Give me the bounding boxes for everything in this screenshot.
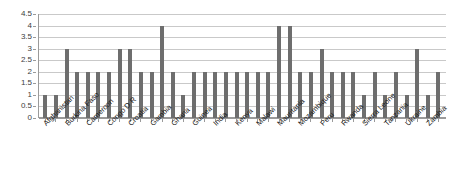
y-axis-tick-mark <box>33 60 36 61</box>
y-axis-tick-mark <box>33 106 36 107</box>
y-axis-tick-mark <box>33 95 36 96</box>
y-axis-tick-mark <box>33 37 36 38</box>
y-axis-tick-mark <box>33 118 36 119</box>
y-axis-tick-mark <box>33 14 36 15</box>
y-axis-tick-label: 3 <box>28 45 32 53</box>
bar-chart: 00.511.522.533.544.5 AfghanistanBurkina … <box>0 0 453 180</box>
bar <box>277 26 281 118</box>
bar <box>213 72 217 118</box>
bar-slot <box>136 14 147 118</box>
bar <box>256 72 260 118</box>
y-axis-tick-label: 0 <box>28 114 32 122</box>
bar <box>150 72 154 118</box>
bar <box>235 72 239 118</box>
y-axis-tick-label: 1.5 <box>21 79 32 87</box>
bar-slot <box>274 14 285 118</box>
bar-slot <box>168 14 179 118</box>
bar-slot <box>221 14 232 118</box>
bar-slot <box>327 14 338 118</box>
y-axis-tick-label: 3.5 <box>21 33 32 41</box>
bar-slot <box>146 14 157 118</box>
bar-slot <box>433 14 444 118</box>
y-axis-tick-label: 1 <box>28 91 32 99</box>
bar-slot <box>253 14 264 118</box>
y-axis: 00.511.522.533.544.5 <box>0 14 36 118</box>
bar <box>107 72 111 118</box>
bar-slot <box>242 14 253 118</box>
y-axis-tick-label: 2 <box>28 68 32 76</box>
y-axis-tick-label: 2.5 <box>21 56 32 64</box>
bar <box>298 72 302 118</box>
bar-slot <box>423 14 434 118</box>
y-axis-tick-mark <box>33 26 36 27</box>
bar-slot <box>189 14 200 118</box>
bar-slot <box>231 14 242 118</box>
bar-slot <box>199 14 210 118</box>
y-axis-tick-label: 4 <box>28 22 32 30</box>
y-axis-tick-mark <box>33 49 36 50</box>
y-axis-tick-label: 0.5 <box>21 102 32 110</box>
bar-slot <box>210 14 221 118</box>
bar-slot <box>40 14 51 118</box>
x-axis-labels: AfghanistanBurkina FasoCameroonCongo D R… <box>38 122 446 180</box>
bar <box>341 72 345 118</box>
bar-slot <box>263 14 274 118</box>
y-axis-tick-mark <box>33 83 36 84</box>
bar-slot <box>338 14 349 118</box>
y-axis-tick-label: 4.5 <box>21 10 32 18</box>
y-axis-tick-mark <box>33 72 36 73</box>
bar <box>171 72 175 118</box>
bar-slot <box>178 14 189 118</box>
bar <box>192 72 196 118</box>
